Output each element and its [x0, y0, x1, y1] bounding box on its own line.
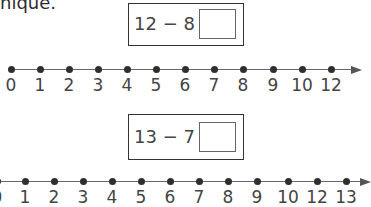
number-line-label: 1 [20, 187, 31, 207]
number-line-label: 12 [320, 75, 342, 95]
arrow-right-icon [351, 66, 362, 74]
number-line-point [285, 178, 292, 185]
number-line-label: 3 [93, 75, 104, 95]
number-line-point [138, 178, 145, 185]
number-line-point [167, 178, 174, 185]
number-line-point [66, 66, 73, 73]
answer-box-2[interactable] [199, 122, 236, 152]
number-line-label: 9 [268, 75, 279, 95]
number-line-label: 10 [291, 75, 313, 95]
number-line-label: 1 [35, 75, 46, 95]
number-line-point [0, 178, 1, 185]
number-line-point [51, 178, 58, 185]
number-line-label: 3 [78, 187, 89, 207]
number-line-2: 0123456789101213 [0, 167, 369, 207]
number-line-label: 4 [122, 75, 133, 95]
number-line-point [22, 178, 29, 185]
arrow-right-icon [360, 178, 371, 186]
number-line-label: 8 [223, 187, 234, 207]
number-line-label: 4 [107, 187, 118, 207]
number-line-label: 10 [277, 187, 299, 207]
number-line-label: 0 [0, 187, 2, 207]
number-line-point [270, 66, 277, 73]
number-line-point [196, 178, 203, 185]
number-line-point [153, 66, 160, 73]
number-line-point [328, 66, 335, 73]
number-line-point [211, 66, 218, 73]
number-line-1: 01234567891012 [0, 55, 369, 95]
instruction-text-partial: nique. [0, 0, 56, 13]
number-line-point [343, 178, 350, 185]
number-line-label: 8 [238, 75, 249, 95]
number-line-label: 9 [252, 187, 263, 207]
number-line-point [240, 66, 247, 73]
number-line-point [124, 66, 131, 73]
number-line-point [37, 66, 44, 73]
number-line-label: 13 [335, 187, 357, 207]
number-line-label: 7 [194, 187, 205, 207]
number-line-point [299, 66, 306, 73]
number-line-point [109, 178, 116, 185]
number-line-label: 6 [180, 75, 191, 95]
number-line-label: 2 [64, 75, 75, 95]
number-line-label: 0 [6, 75, 17, 95]
number-line-label: 5 [151, 75, 162, 95]
answer-box-1[interactable] [199, 9, 236, 39]
number-line-point [254, 178, 261, 185]
number-line-point [95, 66, 102, 73]
number-line-label: 12 [306, 187, 328, 207]
number-line-point [182, 66, 189, 73]
number-line-label: 6 [165, 187, 176, 207]
number-line-label: 5 [136, 187, 147, 207]
number-line-point [225, 178, 232, 185]
number-line-point [8, 66, 15, 73]
number-line-label: 7 [209, 75, 220, 95]
number-line-label: 2 [49, 187, 60, 207]
number-line-point [80, 178, 87, 185]
number-line-point [314, 178, 321, 185]
